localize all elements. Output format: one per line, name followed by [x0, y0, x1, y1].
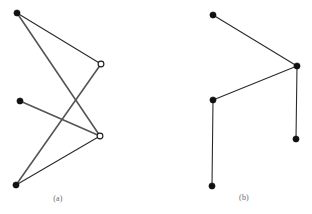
figure-root: (a) (b) [0, 0, 312, 214]
panel-caption-a: (a) [40, 194, 76, 203]
node-a3-bottom-left-filled [13, 182, 19, 188]
diagram-canvas [0, 0, 312, 214]
node-a2-mid-left-filled [17, 98, 23, 104]
node-b3-left-middle-filled [210, 97, 216, 103]
node-b2-right-junction-filled [294, 63, 300, 69]
node-a1-top-left-filled [14, 10, 20, 16]
node-b1-top-filled [210, 12, 216, 18]
node-a5-lower-right-open [97, 133, 103, 139]
node-a4-upper-right-open [98, 61, 104, 67]
canvas-background [0, 0, 312, 214]
node-b4-bottom-left-filled [209, 183, 215, 189]
node-b5-bottom-right-filled [293, 136, 299, 142]
panel-caption-b: (b) [226, 193, 262, 202]
